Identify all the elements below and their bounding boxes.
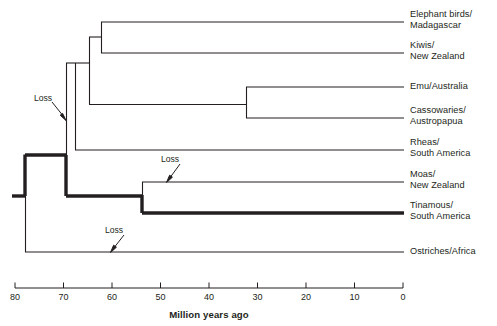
- axis-tick-label-30: 30: [243, 292, 273, 302]
- loss-label-3: Loss: [105, 225, 123, 235]
- loss-arrow-2: [167, 164, 181, 183]
- taxon-label-line1: Emu/Australia: [410, 81, 468, 91]
- taxon-label-elephant-birds: Elephant birds/Madagascar: [410, 9, 472, 32]
- loss-arrow-1: [52, 102, 66, 121]
- taxon-label-line2: New Zealand: [410, 51, 465, 61]
- thin-branches-group: [25, 22, 404, 252]
- taxon-label-line1: Tinamous/: [410, 200, 453, 210]
- taxon-label-line1: Elephant birds/: [410, 9, 472, 19]
- taxon-label-kiwis: Kiwis/New Zealand: [410, 40, 465, 63]
- axis-ticks: [15, 283, 403, 289]
- thick-lineage-group: [12, 155, 404, 214]
- axis-tick-label-40: 40: [194, 292, 224, 302]
- loss-label-1: Loss: [34, 93, 52, 103]
- axis-tick-label-0: 0: [388, 292, 418, 302]
- axis-tick-label-70: 70: [49, 292, 79, 302]
- loss-arrow-3: [111, 235, 125, 253]
- taxon-label-line1: Kiwis/: [410, 40, 434, 50]
- axis-tick-label-10: 10: [340, 292, 370, 302]
- taxon-label-line2: New Zealand: [410, 180, 465, 190]
- taxon-label-moas: Moas/New Zealand: [410, 169, 465, 192]
- taxon-label-line2: South America: [410, 148, 470, 158]
- taxon-label-emu: Emu/Australia: [410, 81, 468, 92]
- taxon-label-rheas: Rheas/South America: [410, 137, 470, 160]
- taxon-label-line2: South America: [410, 211, 470, 221]
- taxon-label-tinamous: Tinamous/South America: [410, 200, 470, 223]
- time-axis: [15, 283, 403, 289]
- taxon-label-line2: Madagascar: [410, 20, 461, 30]
- taxon-label-ostriches: Ostriches/Africa: [410, 246, 476, 257]
- taxon-label-line1: Rheas/: [410, 137, 439, 147]
- taxon-label-cassowaries: Cassowaries/Austropapua: [410, 105, 466, 128]
- axis-tick-label-20: 20: [291, 292, 321, 302]
- loss-label-2: Loss: [161, 154, 179, 164]
- taxon-label-line1: Ostriches/Africa: [410, 246, 476, 256]
- axis-title: Million years ago: [0, 309, 418, 320]
- axis-tick-label-80: 80: [0, 292, 30, 302]
- taxon-label-line1: Cassowaries/: [410, 105, 466, 115]
- axis-tick-label-50: 50: [146, 292, 176, 302]
- axis-tick-label-60: 60: [97, 292, 127, 302]
- taxon-label-line1: Moas/: [410, 169, 435, 179]
- taxon-label-line2: Austropapua: [410, 116, 463, 126]
